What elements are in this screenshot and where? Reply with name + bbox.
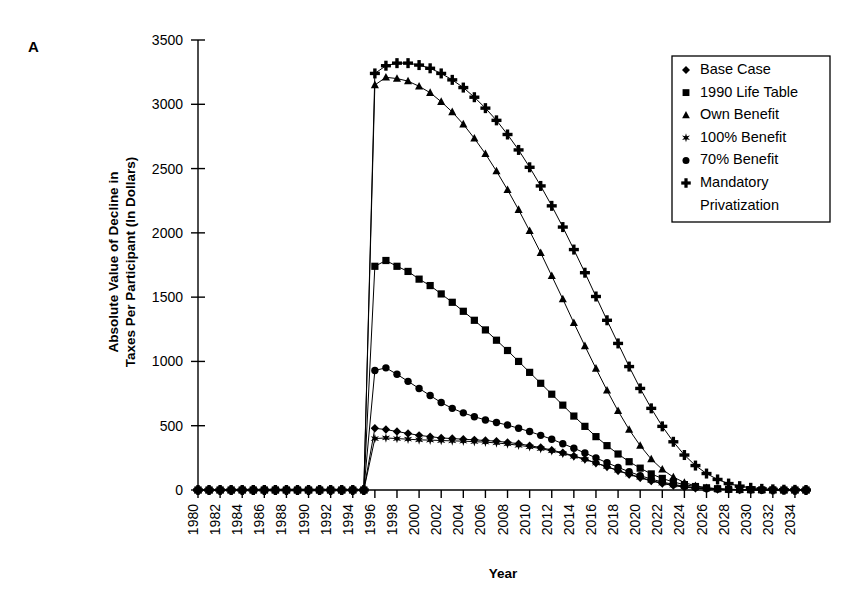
data-point-plus — [591, 292, 601, 302]
x-tick-label: 1994 — [340, 504, 356, 535]
data-point-plus — [646, 403, 656, 413]
x-tick-label: 1996 — [362, 504, 378, 535]
data-point-plus — [381, 61, 391, 71]
data-point-square — [626, 458, 633, 465]
x-tick-label: 2006 — [472, 504, 488, 535]
data-point-square — [427, 282, 434, 289]
data-point-plus — [558, 222, 568, 232]
x-tick-label: 1984 — [229, 504, 245, 535]
series-1990-life-table — [194, 257, 809, 494]
data-point-triangle — [503, 185, 511, 193]
data-point-plus — [514, 145, 524, 155]
data-point-circle — [504, 421, 511, 428]
data-point-plus — [624, 362, 634, 372]
x-tick-label: 2024 — [671, 504, 687, 535]
data-point-triangle — [426, 88, 434, 96]
legend-layer: Base Case1990 Life TableOwn Benefit100% … — [672, 56, 830, 222]
y-tick-label: 1500 — [152, 289, 183, 305]
data-point-triangle — [382, 73, 390, 81]
legend-item-label: 100% Benefit — [700, 129, 786, 145]
data-point-square — [482, 326, 489, 333]
data-point-square — [493, 337, 500, 344]
data-point-triangle — [592, 364, 600, 372]
data-point-circle — [471, 413, 478, 420]
data-point-square — [592, 433, 599, 440]
data-point-plus — [536, 181, 546, 191]
data-point-triangle — [603, 386, 611, 394]
x-tick-label: 2000 — [406, 504, 422, 535]
x-tick-label: 1998 — [384, 504, 400, 535]
data-point-triangle — [559, 295, 567, 303]
data-point-circle — [404, 378, 411, 385]
data-point-triangle — [437, 97, 445, 105]
data-point-triangle — [548, 272, 556, 280]
x-tick-label: 2014 — [561, 504, 577, 535]
data-point-circle — [393, 371, 400, 378]
data-point-circle — [460, 409, 467, 416]
x-tick-label: 2026 — [694, 504, 710, 535]
data-point-diamond — [371, 424, 379, 432]
data-point-plus — [580, 268, 590, 278]
x-tick-label: 2018 — [605, 504, 621, 535]
chart-plot-area: 0500100015002000250030003500198019821984… — [0, 0, 863, 601]
data-point-square — [471, 317, 478, 324]
data-point-square — [637, 465, 644, 472]
data-point-plus — [447, 75, 457, 85]
data-point-triangle — [625, 425, 633, 433]
x-tick-label: 1980 — [185, 504, 201, 535]
data-point-plus — [370, 68, 380, 78]
legend-item-label: Base Case — [700, 61, 771, 77]
data-point-square — [603, 442, 610, 449]
data-point-circle — [515, 425, 522, 432]
data-point-triangle — [669, 473, 677, 481]
x-tick-label: 1988 — [273, 504, 289, 535]
x-tick-label: 2020 — [627, 504, 643, 535]
data-point-circle — [614, 464, 621, 471]
data-point-square — [683, 89, 690, 96]
data-point-circle — [659, 478, 666, 485]
data-point-square — [449, 299, 456, 306]
data-point-square — [393, 263, 400, 270]
data-point-plus — [713, 474, 723, 484]
data-point-plus — [403, 58, 413, 68]
data-point-circle — [371, 367, 378, 374]
data-point-circle — [438, 399, 445, 406]
data-point-plus — [414, 60, 424, 70]
data-point-triangle — [415, 82, 423, 90]
data-point-circle — [415, 385, 422, 392]
data-point-plus — [425, 63, 435, 73]
x-tick-label: 1982 — [207, 504, 223, 535]
data-point-circle — [603, 459, 610, 466]
data-point-plus — [547, 201, 557, 211]
data-point-circle — [692, 484, 699, 491]
y-tick-label: 3500 — [152, 32, 183, 48]
x-tick-label: 2034 — [782, 504, 798, 535]
data-point-triangle — [526, 227, 534, 235]
data-point-square — [559, 402, 566, 409]
data-point-triangle — [537, 248, 545, 256]
data-point-circle — [581, 449, 588, 456]
data-point-circle — [426, 392, 433, 399]
data-point-square — [504, 347, 511, 354]
figure-panel-a: A Absolute Value of Decline in Taxes Per… — [0, 0, 863, 601]
data-point-triangle — [581, 342, 589, 350]
series-line — [198, 261, 806, 491]
data-point-circle — [537, 432, 544, 439]
data-point-circle — [682, 157, 689, 164]
data-point-plus — [503, 130, 513, 140]
data-point-circle — [482, 416, 489, 423]
x-tick-label: 2012 — [539, 504, 555, 535]
data-point-square — [382, 257, 389, 264]
y-tick-label: 500 — [160, 418, 184, 434]
y-tick-label: 2500 — [152, 161, 183, 177]
legend-item-label: Privatization — [700, 197, 779, 213]
data-point-circle — [526, 428, 533, 435]
x-tick-label: 2028 — [716, 504, 732, 535]
data-point-plus — [635, 383, 645, 393]
data-point-plus — [702, 469, 712, 479]
data-point-diamond — [382, 425, 390, 433]
x-tick-label: 2008 — [495, 504, 511, 535]
series-70-benefit — [194, 364, 809, 494]
series-line — [198, 438, 806, 490]
data-point-square — [371, 263, 378, 270]
